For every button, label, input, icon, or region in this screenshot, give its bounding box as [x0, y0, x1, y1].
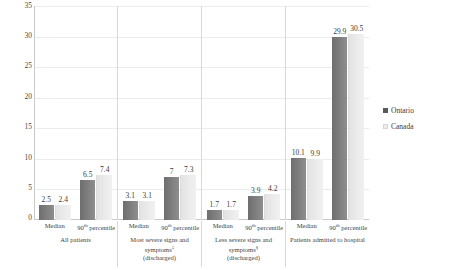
bar-ontario-3-2[interactable]: 3.9	[248, 196, 263, 220]
bar-pair-2-1: 3.13.1	[120, 6, 157, 220]
x-sublabel-2-1: Median	[119, 222, 159, 232]
bar-ontario-4-2[interactable]: 29.9	[332, 37, 347, 220]
chart-legend: Ontario Canada	[383, 106, 449, 138]
y-tick-0: 0	[8, 214, 32, 222]
bar-ontario-2-2[interactable]: 7	[164, 177, 179, 220]
legend-item-ontario[interactable]: Ontario	[383, 106, 449, 115]
bar-canada-3-1[interactable]: 1.7	[223, 210, 239, 220]
x-group-title-4: Patients admitted to hospital	[286, 236, 369, 244]
y-tick-20: 20	[8, 93, 32, 101]
bar-value-label: 10.1	[292, 149, 305, 157]
bar-value-label: 7.4	[100, 166, 109, 174]
x-sublabel-4-1: Median	[287, 222, 327, 232]
bar-group-1: 2.52.46.57.4	[34, 6, 118, 220]
bar-value-label: 4.2	[268, 185, 277, 193]
x-sublabel-3-1: Median	[203, 222, 243, 232]
x-group-title-2: Most severe signs and symptoms‡(discharg…	[118, 236, 201, 262]
bar-ontario-1-1[interactable]: 2.5	[39, 205, 54, 220]
x-sublabel-1-1: Median	[35, 222, 75, 232]
bar-value-label: 6.5	[83, 171, 92, 179]
bar-pair-4-1: 10.19.9	[288, 6, 325, 220]
bar-ontario-2-1[interactable]: 3.1	[123, 201, 138, 220]
bar-pair-3-2: 3.94.2	[246, 6, 283, 220]
bar-pair-4-2: 29.930.5	[330, 6, 367, 220]
bar-value-label: 7.3	[184, 166, 193, 174]
bar-pair-2-2: 77.3	[162, 6, 199, 220]
bar-canada-1-2[interactable]: 7.4	[96, 175, 112, 220]
bar-ontario-3-1[interactable]: 1.7	[207, 210, 222, 220]
x-group-2: Median90th percentileMost severe signs a…	[118, 221, 202, 267]
bar-pair-1-1: 2.52.4	[36, 6, 73, 220]
x-sublabel-1-2: 90th percentile	[76, 222, 116, 232]
y-axis-labels: 35 30 25 20 15 10 5 0	[0, 0, 32, 220]
bar-value-label: 1.7	[227, 201, 236, 209]
x-sublabels: Median90th percentile	[34, 221, 117, 232]
legend-item-canada[interactable]: Canada	[383, 122, 449, 131]
bar-value-label: 1.7	[210, 201, 219, 209]
bar-canada-2-1[interactable]: 3.1	[139, 201, 155, 220]
bar-canada-4-2[interactable]: 30.5	[348, 34, 364, 220]
x-sublabels: Median90th percentile	[118, 221, 201, 232]
bar-chart: 35 30 25 20 15 10 5 0 2.52.46.57.43.13.1…	[0, 0, 454, 270]
x-sublabel-2-2: 90th percentile	[160, 222, 200, 232]
y-tick-30: 30	[8, 32, 32, 40]
bar-value-label: 3.1	[126, 192, 135, 200]
legend-label-ontario: Ontario	[391, 106, 414, 115]
bar-value-label: 29.9	[333, 28, 346, 36]
bar-value-label: 9.9	[311, 150, 320, 158]
bar-value-label: 30.5	[350, 25, 363, 33]
x-sublabels: Median90th percentile	[286, 221, 369, 232]
bar-canada-2-2[interactable]: 7.3	[180, 175, 196, 220]
y-tick-10: 10	[8, 154, 32, 162]
bar-ontario-4-1[interactable]: 10.1	[291, 158, 306, 220]
x-axis: Median90th percentileAll patientsMedian9…	[34, 221, 369, 267]
bar-pair-1-2: 6.57.4	[78, 6, 115, 220]
bar-value-label: 2.4	[59, 196, 68, 204]
x-sublabels: Median90th percentile	[202, 221, 285, 232]
x-group-title-1: All patients	[34, 236, 117, 244]
legend-swatch-canada-icon	[383, 124, 388, 129]
x-group-title-3: Less severe signs and symptoms§(discharg…	[202, 236, 285, 262]
bar-group-3: 1.71.73.94.2	[202, 6, 286, 220]
x-group-1: Median90th percentileAll patients	[34, 221, 118, 267]
bar-canada-3-2[interactable]: 4.2	[264, 194, 280, 220]
bar-value-label: 2.5	[42, 196, 51, 204]
bar-value-label: 3.9	[251, 187, 260, 195]
x-sublabel-3-2: 90th percentile	[244, 222, 284, 232]
y-tick-15: 15	[8, 123, 32, 131]
x-group-3: Median90th percentileLess severe signs a…	[202, 221, 286, 267]
y-tick-5: 5	[8, 184, 32, 192]
x-sublabel-4-2: 90th percentile	[328, 222, 368, 232]
bar-groups: 2.52.46.57.43.13.177.31.71.73.94.210.19.…	[34, 6, 369, 220]
bar-canada-4-1[interactable]: 9.9	[307, 159, 323, 220]
y-tick-25: 25	[8, 62, 32, 70]
bar-canada-1-1[interactable]: 2.4	[55, 205, 71, 220]
bar-group-4: 10.19.929.930.5	[286, 6, 369, 220]
legend-swatch-ontario-icon	[383, 108, 388, 113]
bar-value-label: 7	[170, 168, 174, 176]
y-tick-35: 35	[8, 2, 32, 10]
legend-label-canada: Canada	[391, 122, 414, 131]
bar-value-label: 3.1	[143, 192, 152, 200]
bar-group-2: 3.13.177.3	[118, 6, 202, 220]
x-group-4: Median90th percentilePatients admitted t…	[286, 221, 369, 267]
bar-ontario-1-2[interactable]: 6.5	[80, 180, 95, 220]
bar-pair-3-1: 1.71.7	[204, 6, 241, 220]
